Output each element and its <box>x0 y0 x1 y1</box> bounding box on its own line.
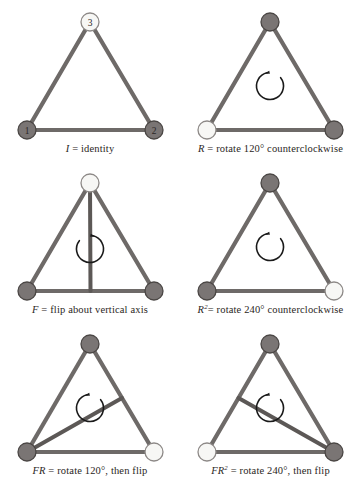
panel-caption-rotate-120: R = rotate 120° counterclockwise <box>180 143 361 155</box>
vertex-bottom-left <box>18 282 36 300</box>
vertex-top: 3 <box>81 13 99 31</box>
rotation-arrow-counterclockwise-icon <box>257 232 284 261</box>
triangle-diagram-flip-rotate-120 <box>0 322 180 483</box>
vertex-top <box>81 174 99 192</box>
vertex-bottom-right <box>325 121 343 139</box>
vertex-label: 3 <box>88 18 93 28</box>
vertex-top <box>261 335 279 353</box>
caption-text: = rotate 120°, then flip <box>46 465 148 476</box>
caption-text: = flip about vertical axis <box>39 304 148 315</box>
triangle-diagram-rotate-240 <box>180 161 360 322</box>
vertex-label: 1 <box>25 126 30 136</box>
triangle-diagram-rotate-120 <box>180 0 360 161</box>
caption-symbol: R <box>198 143 205 154</box>
vertex-bottom-left <box>198 443 216 461</box>
edge-right <box>90 22 154 130</box>
vertex-label: 2 <box>152 126 157 136</box>
caption-text: = rotate 120° counterclockwise <box>205 143 343 154</box>
vertex-bottom-right: 2 <box>145 121 163 139</box>
caption-text: = rotate 240° counterclockwise <box>208 304 344 315</box>
vertex-bottom-left: 1 <box>18 121 36 139</box>
vertex-top <box>261 13 279 31</box>
vertex-top <box>261 174 279 192</box>
vertex-bottom-right <box>145 443 163 461</box>
panel-caption-identity: I = identity <box>0 143 180 155</box>
vertex-bottom-right <box>325 443 343 461</box>
panel-identity: 312I = identity <box>0 0 180 161</box>
triangle-diagram-identity: 312 <box>0 0 180 161</box>
vertex-bottom-right <box>145 282 163 300</box>
triangle-diagram-flip-rotate-240 <box>180 322 360 483</box>
vertex-bottom-left <box>18 443 36 461</box>
panel-caption-rotate-240: R2= rotate 240° counterclockwise <box>180 304 361 316</box>
panel-flip-rotate-120: FR = rotate 120°, then flip <box>0 322 180 483</box>
vertex-bottom-left <box>198 121 216 139</box>
vertex-bottom-left <box>198 282 216 300</box>
panel-caption-flip-rotate-120: FR = rotate 120°, then flip <box>0 465 180 477</box>
panel-caption-flip-rotate-240: FR2 = rotate 240°, then flip <box>180 465 361 477</box>
panel-caption-flip-vertical: F = flip about vertical axis <box>0 304 180 316</box>
edge-right <box>90 183 154 291</box>
caption-text: = rotate 240°, then flip <box>228 465 330 476</box>
rotation-arrow-counterclockwise-icon <box>257 71 284 100</box>
vertex-top <box>81 335 99 353</box>
panel-flip-vertical: F = flip about vertical axis <box>0 161 180 322</box>
triangle-diagram-flip-vertical <box>0 161 180 322</box>
mirror-axis-line <box>90 183 91 291</box>
edge-left <box>27 22 90 130</box>
panel-flip-rotate-240: FR2 = rotate 240°, then flip <box>180 322 361 483</box>
caption-text: = identity <box>69 143 114 154</box>
edge-left <box>27 183 90 291</box>
edge-right <box>270 22 334 130</box>
symmetry-figure: 312I = identityR = rotate 120° countercl… <box>0 0 361 483</box>
panel-rotate-120: R = rotate 120° counterclockwise <box>180 0 361 161</box>
edge-right <box>270 183 334 291</box>
vertex-bottom-right <box>325 282 343 300</box>
caption-symbol: FR <box>32 465 45 476</box>
caption-symbol: FR <box>211 465 224 476</box>
panel-rotate-240: R2= rotate 240° counterclockwise <box>180 161 361 322</box>
caption-symbol: F <box>32 304 39 315</box>
